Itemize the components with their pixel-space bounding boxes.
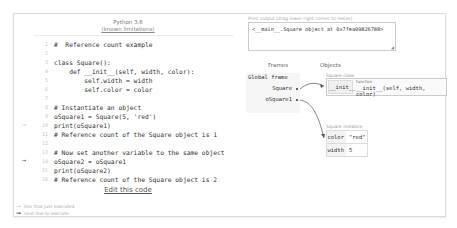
line-number[interactable]: 14 bbox=[34, 157, 48, 166]
code-line: 7 bbox=[34, 94, 234, 103]
next-line-arrow-icon: ➞ bbox=[16, 209, 24, 216]
code-line: 5 self.width = width bbox=[34, 76, 234, 85]
language-label: Python 3.6 bbox=[113, 19, 143, 25]
language-header: Python 3.6 (known limitations) bbox=[14, 19, 242, 33]
code-line: 13# Now set another variable to the same… bbox=[34, 148, 234, 157]
line-number[interactable]: 3 bbox=[34, 58, 48, 67]
line-number[interactable]: 12 bbox=[34, 139, 48, 148]
code-line: 11# Reference count of the Square object… bbox=[34, 130, 234, 139]
line-number[interactable]: 13 bbox=[34, 148, 48, 157]
code-text: # Reference count of the Square object i… bbox=[54, 130, 217, 139]
line-number[interactable]: 5 bbox=[34, 76, 48, 85]
code-text: # Reference count example bbox=[54, 40, 153, 49]
legend-prev: →line that just executed bbox=[16, 202, 74, 209]
code-text: class Square(): bbox=[54, 58, 111, 67]
line-number[interactable]: 1 bbox=[34, 40, 48, 49]
known-limitations-link[interactable]: (known limitations) bbox=[14, 26, 242, 33]
visualizer-panel: Print output (drag lower right corner to… bbox=[246, 14, 445, 216]
code-line: →10print(oSquare1) bbox=[34, 121, 234, 130]
prev-line-arrow-icon: → bbox=[22, 121, 26, 130]
python-tutor-frame: Python 3.6 (known limitations) 1# Refere… bbox=[13, 13, 446, 217]
code-text: print(oSquare2) bbox=[54, 166, 111, 175]
line-number[interactable]: 10 bbox=[34, 121, 48, 130]
code-text: def __init__(self, width, color): bbox=[54, 67, 194, 76]
line-number[interactable]: 15 bbox=[34, 166, 48, 175]
code-line: 8# Instantiate an object bbox=[34, 103, 234, 112]
code-line: 9oSquare1 = Square(5, 'red') bbox=[34, 112, 234, 121]
prev-line-arrow-icon: → bbox=[16, 202, 24, 209]
code-panel: Python 3.6 (known limitations) 1# Refere… bbox=[14, 14, 242, 216]
line-number[interactable]: 6 bbox=[34, 85, 48, 94]
line-number[interactable]: 2 bbox=[34, 49, 48, 58]
code-listing: 1# Reference count example23class Square… bbox=[34, 35, 234, 184]
line-number[interactable]: 7 bbox=[34, 94, 48, 103]
code-text: print(oSquare1) bbox=[54, 121, 111, 130]
line-number[interactable]: 9 bbox=[34, 112, 48, 121]
code-line: 12 bbox=[34, 139, 234, 148]
code-line: 15print(oSquare2) bbox=[34, 166, 234, 175]
next-line-arrow-icon: ➞ bbox=[22, 157, 26, 166]
code-line: 1# Reference count example bbox=[34, 40, 234, 49]
legend-next: ➞next line to execute bbox=[16, 209, 69, 216]
code-line: ➞14oSquare2 = oSquare1 bbox=[34, 157, 234, 166]
line-number[interactable]: 16 bbox=[34, 175, 48, 184]
code-text: self.width = width bbox=[54, 76, 153, 85]
code-text: self.color = color bbox=[54, 85, 153, 94]
edit-code-link[interactable]: Edit this code bbox=[14, 186, 242, 194]
code-line: 6 self.color = color bbox=[34, 85, 234, 94]
code-text: # Reference count of the Square object i… bbox=[54, 175, 217, 184]
code-line: 16# Reference count of the Square object… bbox=[34, 175, 234, 184]
line-number[interactable]: 11 bbox=[34, 130, 48, 139]
code-text: # Now set another variable to the same o… bbox=[54, 148, 225, 157]
code-line: 2 bbox=[34, 49, 234, 58]
code-line: 4 def __init__(self, width, color): bbox=[34, 67, 234, 76]
legend-next-label: next line to execute bbox=[24, 211, 69, 216]
line-number[interactable]: 4 bbox=[34, 67, 48, 76]
code-text: # Instantiate an object bbox=[54, 103, 141, 112]
code-text: oSquare1 = Square(5, 'red') bbox=[54, 112, 156, 121]
code-line: 3class Square(): bbox=[34, 58, 234, 67]
code-text: oSquare2 = oSquare1 bbox=[54, 157, 126, 166]
line-number[interactable]: 8 bbox=[34, 103, 48, 112]
reference-arrows bbox=[246, 14, 445, 216]
